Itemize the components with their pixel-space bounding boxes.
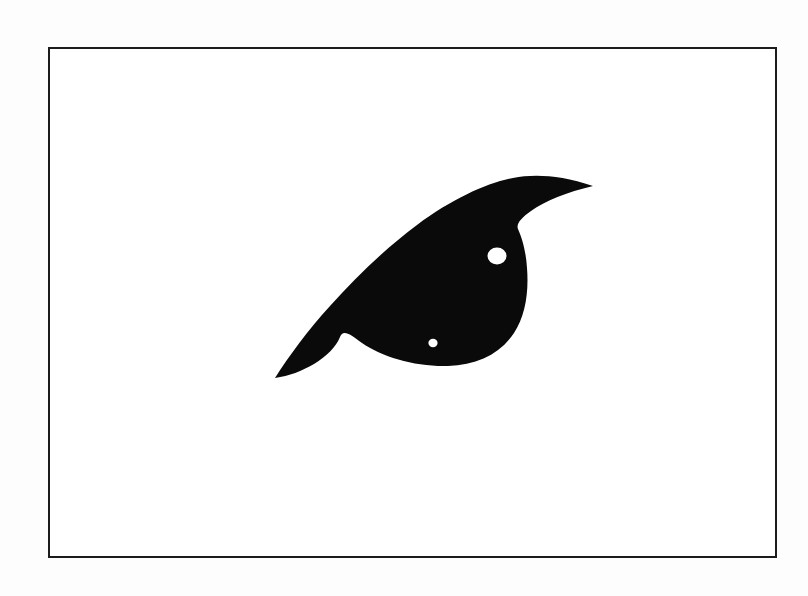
silhouette-figure xyxy=(0,0,808,596)
figure-canvas xyxy=(0,0,808,596)
silhouette-shape xyxy=(0,0,808,596)
page-root xyxy=(0,0,808,596)
